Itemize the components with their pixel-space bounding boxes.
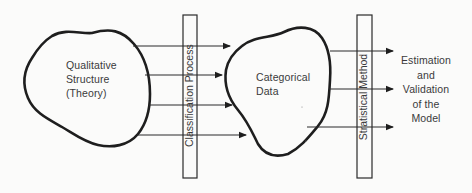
qualitative-structure-label: Qualitative Structure (Theory)	[66, 58, 117, 100]
classification-process-label: Classification Process	[183, 47, 197, 147]
label-line: (Theory)	[66, 86, 117, 100]
statistical-method-label: Stratistical Method	[357, 47, 371, 147]
output-label: Estimation and Validation of the Model	[388, 53, 464, 126]
label-line: of the	[388, 97, 464, 112]
diagram-canvas: Qualitative Structure (Theory) Classific…	[0, 0, 472, 193]
label-line: Categorical	[256, 70, 310, 84]
label-line: Qualitative	[66, 58, 117, 72]
label-line: Estimation	[388, 53, 464, 68]
label-line: and	[388, 68, 464, 83]
categorical-data-label: Categorical Data	[256, 70, 310, 98]
label-line: Data	[256, 84, 310, 98]
label-line: Validation	[388, 82, 464, 97]
label-line: Structure	[66, 72, 117, 86]
label-line: Model	[388, 111, 464, 126]
